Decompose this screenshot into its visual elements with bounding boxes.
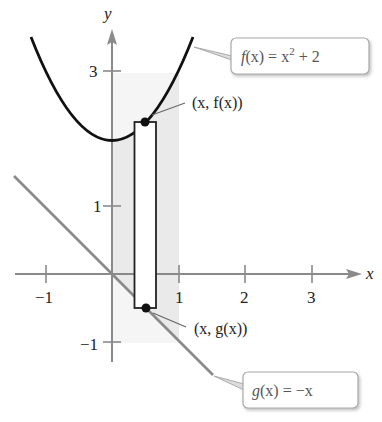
g-callout: g(x) = −x [214,372,358,408]
g-callout-rest: (x) = −x [260,382,313,400]
g-point-label: (x, g(x)) [194,320,247,338]
f-point-label: (x, f(x)) [192,94,243,112]
f-callout-rest: + 2 [295,48,320,65]
y-tick-label: 3 [89,62,98,81]
y-axis-label: y [102,4,112,23]
x-tick-label: 1 [175,288,184,307]
y-tick-label: −1 [80,335,98,354]
svg-text:f(x) = x2 + 2: f(x) = x2 + 2 [241,45,320,66]
f-callout-open: (x) = x [245,48,289,66]
x-tick-label: 3 [307,288,316,307]
x-tick-label: −1 [35,288,53,307]
f-point-dot [141,118,150,127]
g-callout-name: g [252,382,260,400]
g-point-dot [142,304,151,313]
representative-rectangle [135,122,157,308]
svg-text:g(x) = −x: g(x) = −x [252,382,313,400]
y-tick-label: 1 [93,197,102,216]
region-between-curves-diagram: −1 1 2 3 3 1 −1 x y (x, f(x)) (x, g(x)) … [0,0,382,422]
x-tick-label: 2 [240,288,249,307]
f-callout: f(x) = x2 + 2 [194,38,369,74]
x-axis [15,265,362,283]
x-axis-label: x [365,264,374,283]
